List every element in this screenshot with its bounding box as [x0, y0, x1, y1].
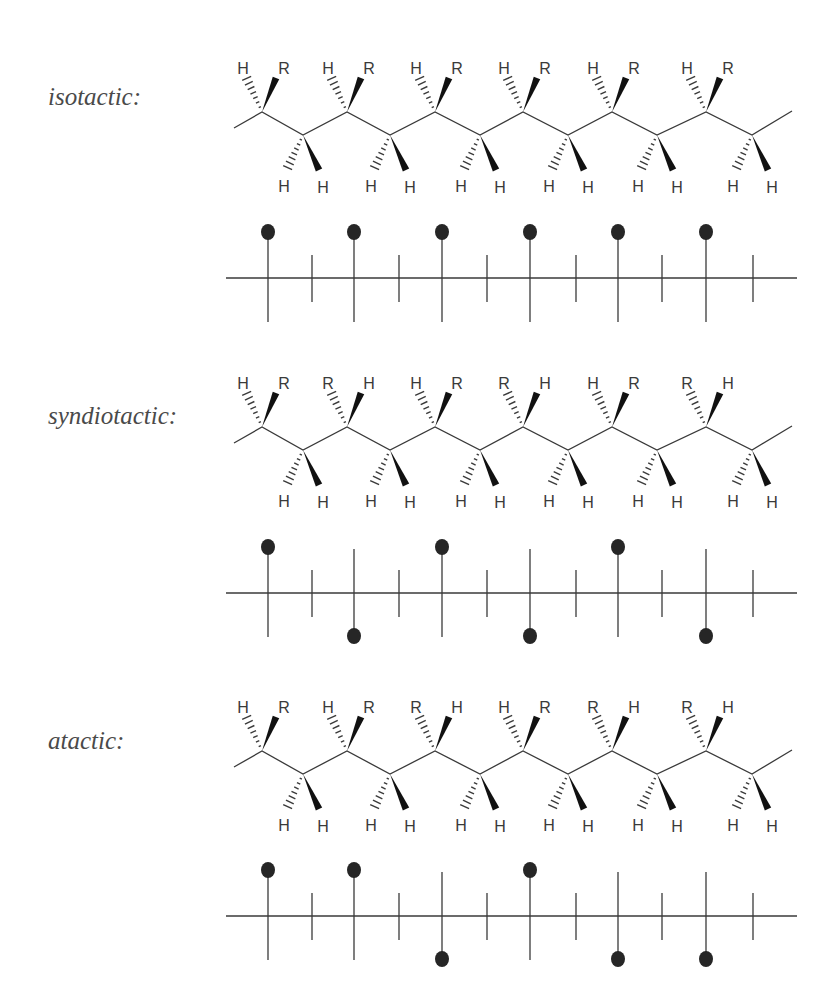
hash-stroke — [297, 459, 300, 461]
hash-stroke — [740, 152, 746, 155]
hash-stroke — [387, 139, 389, 140]
hash-stroke — [376, 472, 383, 475]
wedge-bond — [435, 716, 452, 751]
hash-stroke — [291, 152, 297, 155]
hash-stroke — [471, 148, 475, 150]
wedge-bond — [390, 774, 409, 810]
wedge-bond — [612, 716, 629, 751]
hash-stroke — [606, 417, 609, 419]
hash-stroke — [421, 401, 428, 404]
hash-stroke — [256, 102, 259, 104]
hash-stroke — [477, 139, 479, 140]
atom-label-h: H — [722, 375, 734, 392]
hash-stroke — [370, 805, 379, 809]
hash-stroke — [250, 731, 256, 734]
hash-stroke — [598, 86, 605, 89]
hash-stroke — [294, 787, 298, 789]
substituent-dot-down — [699, 951, 713, 967]
atom-label-r: R — [539, 699, 551, 716]
atom-label-h: H — [365, 178, 377, 195]
hash-stroke — [338, 97, 342, 99]
hash-stroke — [294, 148, 298, 150]
atom-label-r: R — [451, 375, 463, 392]
wedge-bond — [435, 77, 452, 112]
atom-label-r: R — [410, 699, 422, 716]
hash-stroke — [381, 148, 385, 150]
atom-label-r: R — [681, 375, 693, 392]
hash-stroke — [250, 407, 256, 410]
atom-label-h: H — [317, 818, 329, 835]
hash-stroke — [423, 731, 429, 734]
wedge-bond — [480, 450, 499, 486]
substituent-dot-up — [435, 224, 449, 240]
wedge-bond — [568, 774, 587, 810]
hash-stroke — [732, 481, 741, 485]
atom-label-h: H — [451, 699, 463, 716]
hash-stroke — [703, 746, 705, 747]
substituent-dot-up — [611, 539, 625, 555]
hash-stroke — [242, 715, 251, 719]
substituent-dot-down — [435, 951, 449, 967]
hash-stroke — [344, 107, 346, 108]
hash-stroke — [592, 715, 601, 719]
atom-label-h: H — [455, 178, 467, 195]
hash-stroke — [259, 107, 261, 108]
atom-label-h: H — [278, 817, 290, 834]
hash-stroke — [335, 407, 341, 410]
atom-label-h: H — [404, 818, 416, 835]
hash-stroke — [387, 778, 389, 779]
atom-label-h: H — [539, 375, 551, 392]
hash-stroke — [330, 81, 338, 85]
hash-stroke — [373, 476, 381, 480]
hash-stroke — [551, 800, 559, 804]
hash-stroke — [245, 720, 253, 724]
hash-stroke — [253, 736, 257, 738]
wedge-bond — [657, 450, 676, 486]
hash-stroke — [474, 783, 477, 785]
hash-stroke — [609, 422, 611, 423]
hash-stroke — [511, 407, 517, 410]
hash-stroke — [603, 412, 607, 414]
hash-stroke — [289, 796, 296, 799]
hash-stroke — [551, 476, 559, 480]
atom-label-h: H — [363, 375, 375, 392]
hash-stroke — [559, 463, 563, 465]
hash-stroke — [253, 412, 257, 414]
zigzag-atactic: HRHRRHHRRHRHHHHHHHHHHHHH — [234, 699, 792, 835]
hash-stroke — [565, 778, 567, 779]
atom-label-r: R — [722, 60, 734, 77]
label-isotactic: isotactic: — [48, 84, 141, 109]
atom-label-r: R — [451, 60, 463, 77]
atom-label-h: H — [494, 179, 506, 196]
hash-stroke — [256, 741, 259, 743]
hash-stroke — [640, 476, 648, 480]
atom-label-h: H — [494, 494, 506, 511]
hash-stroke — [423, 92, 429, 95]
hash-stroke — [509, 86, 516, 89]
atom-label-r: R — [498, 375, 510, 392]
hash-stroke — [746, 459, 749, 461]
wedge-bond — [347, 392, 364, 427]
substituent-dot-up — [523, 862, 537, 878]
hash-stroke — [432, 422, 434, 423]
atom-label-h: H — [632, 817, 644, 834]
hash-stroke — [556, 152, 562, 155]
atom-label-h: H — [498, 60, 510, 77]
atom-label-h: H — [322, 60, 334, 77]
atom-label-h: H — [628, 699, 640, 716]
atom-label-h: H — [410, 60, 422, 77]
hash-stroke — [344, 422, 346, 423]
hash-stroke — [426, 736, 430, 738]
hash-stroke — [338, 736, 342, 738]
hash-stroke — [562, 783, 565, 785]
hash-stroke — [554, 472, 561, 475]
hash-stroke — [559, 787, 563, 789]
hash-stroke — [520, 422, 522, 423]
hash-stroke — [333, 725, 340, 728]
hash-stroke — [645, 791, 651, 794]
hash-stroke — [732, 166, 741, 170]
hash-stroke — [300, 778, 302, 779]
substituent-dot-up — [261, 539, 275, 555]
hash-stroke — [418, 396, 426, 400]
hash-stroke — [645, 152, 651, 155]
